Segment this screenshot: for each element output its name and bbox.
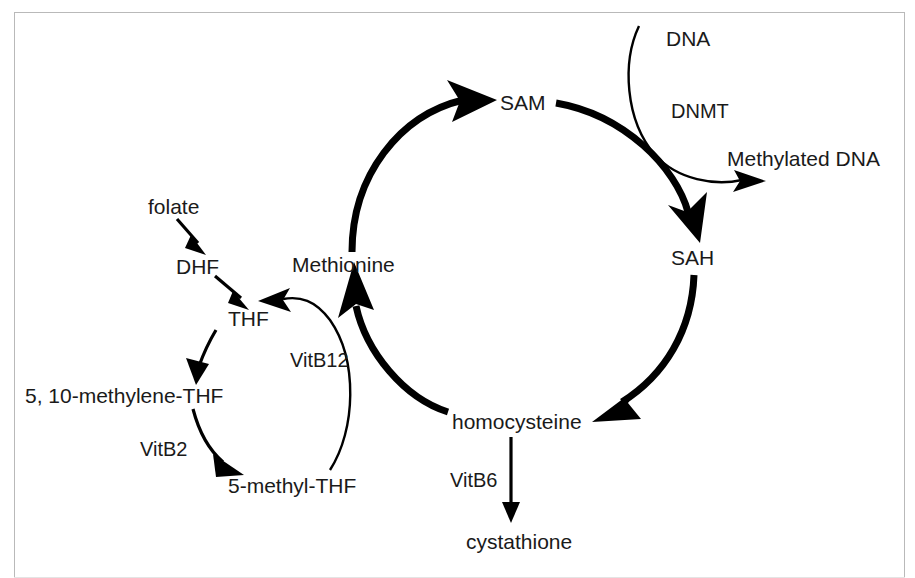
node-label-dna: DNA <box>666 27 710 50</box>
pathway-diagram: folate DHF THF 5, 10-methylene-THF 5-met… <box>0 0 915 578</box>
node-label-homocysteine: homocysteine <box>452 410 582 433</box>
arrow-dhf-to-thf <box>215 276 249 310</box>
arrow-methylene-thf-to-methyl-thf <box>193 409 244 477</box>
node-label-cystathione: cystathione <box>466 530 572 553</box>
arrow-sah-to-homocysteine <box>592 275 694 422</box>
node-label-sah: SAH <box>671 246 714 269</box>
node-label-sam: SAM <box>500 91 546 114</box>
node-label-thf: THF <box>228 307 269 330</box>
cofactor-label-vitb12: VitB12 <box>290 349 349 371</box>
arrow-thf-to-methylene-thf <box>186 330 216 385</box>
node-label-methylated-dna: Methylated DNA <box>727 147 880 170</box>
arrow-homocysteine-to-cystathione <box>502 437 520 523</box>
arrow-methyl-thf-to-thf <box>258 288 350 470</box>
node-label-folate: folate <box>148 195 199 218</box>
node-label-dhf: DHF <box>176 255 219 278</box>
node-label-methionine: Methionine <box>292 253 395 276</box>
arrow-sam-to-sah <box>556 103 707 243</box>
diagram-page: folate DHF THF 5, 10-methylene-THF 5-met… <box>0 0 915 578</box>
cofactor-label-vitb2: VitB2 <box>140 438 187 460</box>
arrow-homocysteine-to-methionine <box>338 262 448 412</box>
cofactor-label-dnmt: DNMT <box>671 100 729 122</box>
arrow-folate-to-dhf <box>177 219 206 255</box>
arrow-methionine-to-sam <box>352 80 497 252</box>
node-label-methylene-thf: 5, 10-methylene-THF <box>25 384 223 407</box>
cofactor-label-vitb6: VitB6 <box>450 469 497 491</box>
node-label-methyl-thf: 5-methyl-THF <box>228 474 356 497</box>
